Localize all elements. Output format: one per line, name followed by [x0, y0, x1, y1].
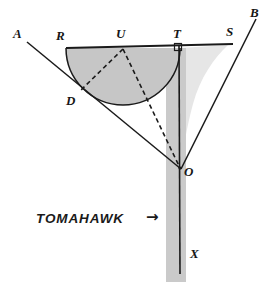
- pale-shaded-region: [180, 45, 228, 168]
- vertex-dot-O: [178, 166, 181, 169]
- caption-tomahawk: TOMAHAWK: [36, 212, 124, 226]
- segment-TX: [179, 46, 180, 274]
- label-R: R: [56, 29, 65, 42]
- label-A: A: [13, 27, 22, 40]
- label-O: O: [184, 165, 193, 178]
- label-T: T: [173, 27, 181, 40]
- label-D: D: [66, 94, 75, 107]
- label-S: S: [226, 25, 233, 38]
- caption-arrow-icon: →: [146, 210, 159, 225]
- label-B: B: [250, 6, 259, 19]
- semicircle-head-fill: [66, 48, 180, 105]
- geometry-canvas: [0, 0, 274, 282]
- label-U: U: [116, 27, 125, 40]
- tomahawk-figure: A R U T S B D O X TOMAHAWK →: [0, 0, 274, 282]
- label-X: X: [190, 247, 199, 260]
